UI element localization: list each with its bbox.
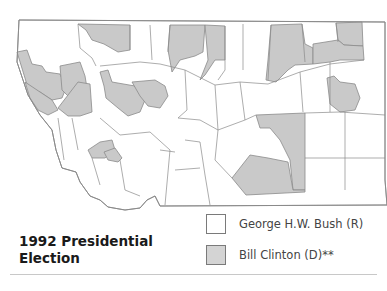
map-title-line-2: Election — [19, 250, 153, 267]
montana-county-map — [0, 0, 387, 215]
divider-rule — [10, 274, 377, 275]
legend-swatch-clinton — [206, 245, 226, 265]
legend-label-bush: George H.W. Bush (R) — [239, 217, 363, 231]
legend-swatch-bush — [206, 214, 226, 234]
map-title: 1992 Presidential Election — [19, 233, 153, 267]
map-title-line-1: 1992 Presidential — [19, 233, 153, 250]
legend-label-clinton: Bill Clinton (D)** — [239, 248, 334, 262]
legend-item-bush: George H.W. Bush (R) — [206, 214, 363, 234]
legend-item-clinton: Bill Clinton (D)** — [206, 245, 334, 265]
